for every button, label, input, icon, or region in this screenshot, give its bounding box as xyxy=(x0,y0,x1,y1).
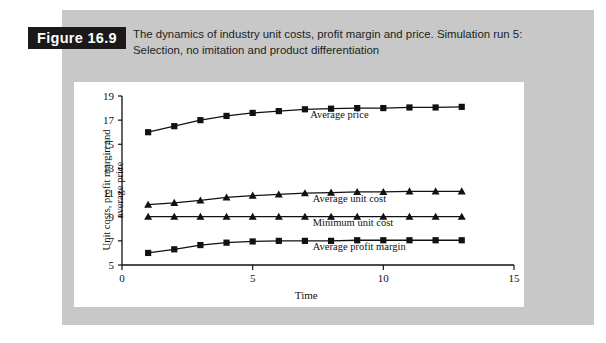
series-3: Minimum unit cost xyxy=(144,213,466,228)
series-label: Minimum unit cost xyxy=(313,217,394,228)
data-point-square xyxy=(145,129,151,135)
data-point-square xyxy=(197,242,203,248)
figure-number-label: Figure 16.9 xyxy=(37,30,117,46)
data-point-square xyxy=(145,250,151,256)
data-point-square xyxy=(459,104,465,110)
data-point-square xyxy=(276,108,282,114)
series-2: Average unit cost xyxy=(144,187,466,207)
series-4: Average profit margin xyxy=(145,237,465,256)
series-label: Average profit margin xyxy=(313,241,407,252)
x-axis-title: Time xyxy=(295,289,318,301)
data-point-square xyxy=(276,238,282,244)
data-point-square xyxy=(459,237,465,243)
data-point-square xyxy=(223,113,229,119)
y-axis-tick-label: 19 xyxy=(103,90,115,102)
data-point-square xyxy=(250,238,256,244)
data-point-square xyxy=(223,240,229,246)
data-point-square xyxy=(433,237,439,243)
x-axis-tick-label: 5 xyxy=(250,272,256,284)
data-point-square xyxy=(380,105,386,111)
line-chart: 5791113151719051015TimeAverage priceAver… xyxy=(74,82,524,307)
x-axis-tick-label: 0 xyxy=(119,272,125,284)
x-axis-tick-label: 10 xyxy=(378,272,390,284)
y-axis-tick-label: 15 xyxy=(103,138,115,150)
data-point-square xyxy=(302,106,308,112)
data-point-square xyxy=(302,238,308,244)
figure-caption: The dynamics of industry unit costs, pro… xyxy=(133,26,563,58)
y-axis-tick-label: 17 xyxy=(103,114,115,126)
chart-card: 5791113151719051015TimeAverage priceAver… xyxy=(74,82,524,307)
data-point-square xyxy=(171,123,177,129)
series-label: Average unit cost xyxy=(313,193,386,204)
data-point-square xyxy=(197,117,203,123)
x-axis-tick-label: 15 xyxy=(509,272,521,284)
y-axis-tick-label: 7 xyxy=(109,235,115,247)
data-point-square xyxy=(433,104,439,110)
y-axis-tick-label: 9 xyxy=(109,211,115,223)
figure-number-badge: Figure 16.9 xyxy=(28,27,126,49)
data-point-square xyxy=(406,237,412,243)
figure-caption-line-1: The dynamics of industry unit costs, pro… xyxy=(133,26,563,42)
y-axis-tick-label: 11 xyxy=(103,187,114,199)
y-axis-tick-label: 5 xyxy=(109,259,115,271)
figure-caption-line-2: Selection, no imitation and product diff… xyxy=(133,42,563,58)
data-point-square xyxy=(406,104,412,110)
series-1: Average price xyxy=(145,104,465,136)
data-point-square xyxy=(250,110,256,116)
data-point-square xyxy=(171,246,177,252)
figure-root: Figure 16.9 The dynamics of industry uni… xyxy=(0,0,606,343)
y-axis-tick-label: 13 xyxy=(103,162,115,174)
series-label: Average price xyxy=(310,109,369,120)
